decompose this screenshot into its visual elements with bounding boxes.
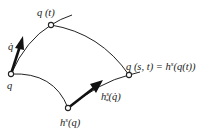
label-q-s-t: q (s, t) = hs(q(t)) bbox=[126, 60, 196, 73]
pushforward-arrow bbox=[68, 87, 95, 108]
point-hs-q bbox=[65, 105, 70, 110]
velocity-arrowhead-icon bbox=[15, 36, 24, 50]
point-q bbox=[8, 71, 13, 76]
label-q-t: q (t) bbox=[37, 7, 55, 19]
flow-diagram: q (t) q̇ q q (s, t) = hs(q(t)) hs*(q̇) h… bbox=[0, 0, 215, 132]
point-q-t bbox=[48, 22, 53, 27]
label-hs-q: hs(q) bbox=[60, 116, 81, 129]
curve-qt-to-qst bbox=[51, 25, 129, 75]
curve-q-to-hsq bbox=[11, 74, 68, 108]
label-q-dot: q̇ bbox=[8, 41, 13, 52]
label-pushforward: hs*(q̇) bbox=[101, 90, 121, 105]
label-q: q bbox=[7, 80, 12, 91]
point-q-s-t bbox=[126, 72, 131, 77]
